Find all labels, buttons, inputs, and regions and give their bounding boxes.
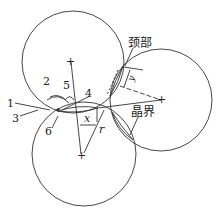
right-center-mark: + — [157, 94, 166, 105]
neck-label: 颈部 — [128, 37, 152, 49]
sintering-diagram — [0, 0, 224, 217]
label-x: x — [84, 113, 90, 124]
label-2: 2 — [43, 76, 50, 87]
label-3: 3 — [12, 113, 19, 124]
grain-boundary-label: 晶界 — [131, 106, 155, 118]
neck-lens — [110, 66, 123, 96]
bottom-center-mark: + — [77, 150, 86, 161]
grain-boundary-lens-right — [112, 112, 133, 140]
label-4: 4 — [85, 88, 92, 99]
label-r: r — [99, 124, 104, 135]
label-6: 6 — [45, 126, 52, 137]
label-5: 5 — [63, 80, 70, 91]
top-center-mark: + — [66, 56, 75, 67]
label-1: 1 — [7, 98, 14, 109]
